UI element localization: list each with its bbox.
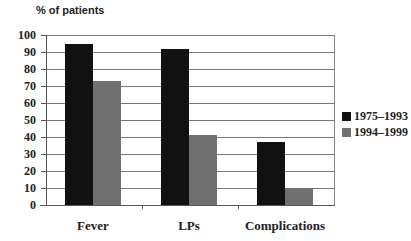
legend-swatch-icon bbox=[342, 112, 351, 121]
x-tick bbox=[238, 205, 239, 209]
y-tick-label: 40 bbox=[6, 131, 36, 143]
y-tick-label: 20 bbox=[6, 165, 36, 177]
y-tick bbox=[41, 154, 46, 155]
legend-swatch-icon bbox=[342, 128, 351, 137]
y-tick-label: 30 bbox=[6, 148, 36, 160]
y-tick-label: 90 bbox=[6, 46, 36, 58]
gridline bbox=[46, 35, 334, 36]
y-axis-line bbox=[46, 35, 47, 206]
y-tick bbox=[41, 69, 46, 70]
y-tick-label: 10 bbox=[6, 182, 36, 194]
y-tick bbox=[41, 205, 46, 206]
y-tick-label: 70 bbox=[6, 80, 36, 92]
legend-item: 1994–1999 bbox=[342, 124, 408, 140]
bar-fever-series-1 bbox=[65, 44, 93, 206]
y-axis-title: % of patients bbox=[36, 4, 104, 16]
legend-item: 1975–1993 bbox=[342, 108, 408, 124]
y-tick bbox=[41, 120, 46, 121]
y-tick bbox=[41, 86, 46, 87]
x-category-label: LPs bbox=[139, 218, 239, 234]
legend-label: 1994–1999 bbox=[354, 125, 408, 140]
y-tick bbox=[41, 171, 46, 172]
bar-lps-series-1 bbox=[161, 49, 189, 205]
x-tick bbox=[142, 205, 143, 209]
x-category-label: Fever bbox=[43, 218, 143, 234]
y-tick-label: 50 bbox=[6, 114, 36, 126]
x-axis-line bbox=[40, 205, 335, 206]
y-tick-label: 80 bbox=[6, 63, 36, 75]
bar-fever-series-2 bbox=[93, 81, 121, 205]
y-tick-label: 60 bbox=[6, 97, 36, 109]
y-tick bbox=[41, 103, 46, 104]
bar-complications-series-1 bbox=[257, 142, 285, 205]
x-category-label: Complications bbox=[235, 218, 335, 234]
y-tick bbox=[41, 52, 46, 53]
y-tick-label: 0 bbox=[6, 199, 36, 211]
y-tick bbox=[41, 137, 46, 138]
bar-lps-series-2 bbox=[189, 135, 217, 205]
y-tick bbox=[41, 35, 46, 36]
y-tick-label: 100 bbox=[6, 29, 36, 41]
legend-label: 1975–1993 bbox=[354, 109, 408, 124]
legend: 1975–19931994–1999 bbox=[342, 108, 408, 140]
bar-complications-series-2 bbox=[285, 188, 313, 205]
y-tick bbox=[41, 188, 46, 189]
